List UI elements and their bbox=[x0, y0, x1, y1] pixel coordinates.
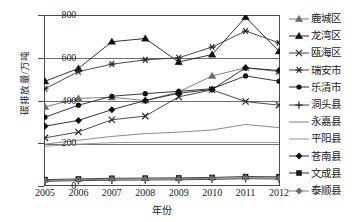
y-tick-mark bbox=[38, 101, 44, 102]
legend-item-label: 龙湾区 bbox=[310, 30, 342, 41]
square-icon bbox=[288, 166, 310, 180]
legend-item-label: 瑞安市 bbox=[310, 65, 342, 76]
triangle-gray-icon bbox=[288, 12, 310, 26]
series-11 bbox=[44, 174, 280, 184]
y-tick-mark bbox=[38, 143, 44, 144]
legend-item-label: 文成县 bbox=[310, 168, 342, 179]
x-tick-label: 2005 bbox=[28, 188, 62, 198]
legend-item-label: 洞头县 bbox=[310, 99, 342, 110]
series-8 bbox=[45, 142, 279, 146]
legend-item-1[interactable]: 鹿城区 bbox=[288, 10, 359, 27]
x-tick-label: 2007 bbox=[95, 188, 129, 198]
x-tick-label: 2009 bbox=[162, 188, 196, 198]
y-tick-mark bbox=[38, 15, 44, 16]
x-tick-label: 2010 bbox=[195, 188, 229, 198]
legend-item-label: 鹿城区 bbox=[310, 13, 342, 24]
series-layer bbox=[44, 15, 280, 186]
legend-item-label: 泰顺县 bbox=[310, 185, 342, 196]
legend-item-6[interactable]: 洞头县 bbox=[288, 96, 359, 113]
x-tick-label: 2011 bbox=[229, 188, 263, 198]
legend-item-2[interactable]: 龙湾区 bbox=[288, 27, 359, 44]
legend-item-label: 乐清市 bbox=[310, 82, 342, 93]
y-tick-label: 600 bbox=[42, 53, 76, 63]
legend-item-4[interactable]: 瑞安市 bbox=[288, 62, 359, 79]
legend-item-10[interactable]: 文成县 bbox=[288, 165, 359, 182]
y-tick-mark bbox=[38, 58, 44, 59]
figure-caption bbox=[0, 210, 359, 222]
plus-icon bbox=[288, 98, 310, 112]
x-tick-label: 2006 bbox=[61, 188, 95, 198]
legend-item-8[interactable]: 平阳县 bbox=[288, 130, 359, 147]
legend-item-3[interactable]: 瓯海区 bbox=[288, 44, 359, 61]
legend-item-11[interactable]: 泰顺县 bbox=[288, 182, 359, 199]
legend-item-label: 瓯海区 bbox=[310, 47, 342, 58]
line-icon bbox=[288, 132, 310, 146]
y-tick-label: 200 bbox=[42, 138, 76, 148]
chart-figure: 碳排放量/万吨 年份 鹿城区龙湾区瓯海区瑞安市乐清市洞头县永嘉县平阳县苍南县文成… bbox=[0, 0, 359, 222]
x-cross-icon bbox=[288, 46, 310, 60]
legend-item-label: 苍南县 bbox=[310, 151, 342, 162]
legend-item-9[interactable]: 苍南县 bbox=[288, 148, 359, 165]
triangle-black-icon bbox=[288, 29, 310, 43]
legend-item-5[interactable]: 乐清市 bbox=[288, 79, 359, 96]
line-icon bbox=[288, 115, 310, 129]
x-tick-label: 2012 bbox=[262, 188, 296, 198]
asterisk-icon bbox=[288, 63, 310, 77]
circle-icon bbox=[288, 80, 310, 94]
y-axis-title: 碳排放量/万吨 bbox=[17, 37, 31, 129]
y-tick-label: 400 bbox=[42, 96, 76, 106]
legend-item-7[interactable]: 永嘉县 bbox=[288, 113, 359, 130]
chart-legend: 鹿城区龙湾区瓯海区瑞安市乐清市洞头县永嘉县平阳县苍南县文成县泰顺县 bbox=[288, 10, 359, 202]
legend-item-label: 永嘉县 bbox=[310, 116, 342, 127]
series-4 bbox=[44, 28, 280, 92]
legend-item-label: 平阳县 bbox=[310, 133, 342, 144]
x-tick-label: 2008 bbox=[128, 188, 162, 198]
diamond-black-icon bbox=[288, 149, 310, 163]
y-tick-label: 800 bbox=[42, 10, 76, 20]
